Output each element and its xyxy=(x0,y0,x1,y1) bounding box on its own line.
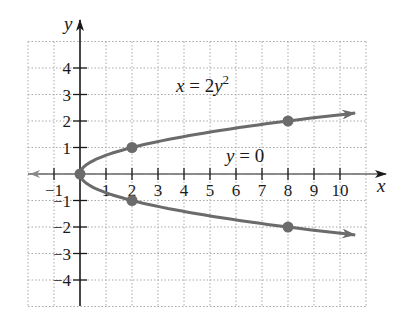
sym-equals-zero: = 0 xyxy=(234,145,264,166)
equation-label: x = 2y2 xyxy=(175,72,229,96)
y-tick-label: −2 xyxy=(53,218,71,237)
y-tick-label: −4 xyxy=(53,271,72,290)
x-tick-label: 4 xyxy=(180,181,189,200)
x-tick-label: 5 xyxy=(206,181,215,200)
data-point xyxy=(283,116,294,127)
eq-equals: = 2 xyxy=(184,75,214,96)
x-tick-label: 7 xyxy=(258,181,267,200)
y-tick-label: −1 xyxy=(53,192,71,211)
eq-exponent: 2 xyxy=(223,72,230,87)
x-tick-label: 6 xyxy=(232,181,241,200)
eq-y-var: y xyxy=(212,75,223,96)
y-tick-label: 1 xyxy=(63,139,72,158)
symmetry-label: y = 0 xyxy=(224,145,264,166)
data-point xyxy=(75,169,86,180)
data-point xyxy=(127,142,138,153)
x-tick-label: 3 xyxy=(154,181,163,200)
y-axis-label: y xyxy=(62,13,73,34)
y-tick-label: 4 xyxy=(63,59,72,78)
x-tick-label: 9 xyxy=(310,181,319,200)
x-axis-label: x xyxy=(376,175,386,196)
data-point xyxy=(127,195,138,206)
y-tick-label: 3 xyxy=(63,86,72,105)
parabola-graph: −1123456789104321−1−2−3−4 y x x = 2y2 y … xyxy=(0,0,403,329)
x-tick-label: 10 xyxy=(332,181,349,200)
y-tick-label: 2 xyxy=(63,112,72,131)
x-tick-label: 8 xyxy=(284,181,293,200)
data-point xyxy=(283,222,294,233)
sym-y-var: y xyxy=(224,145,235,166)
y-tick-label: −3 xyxy=(53,245,71,264)
